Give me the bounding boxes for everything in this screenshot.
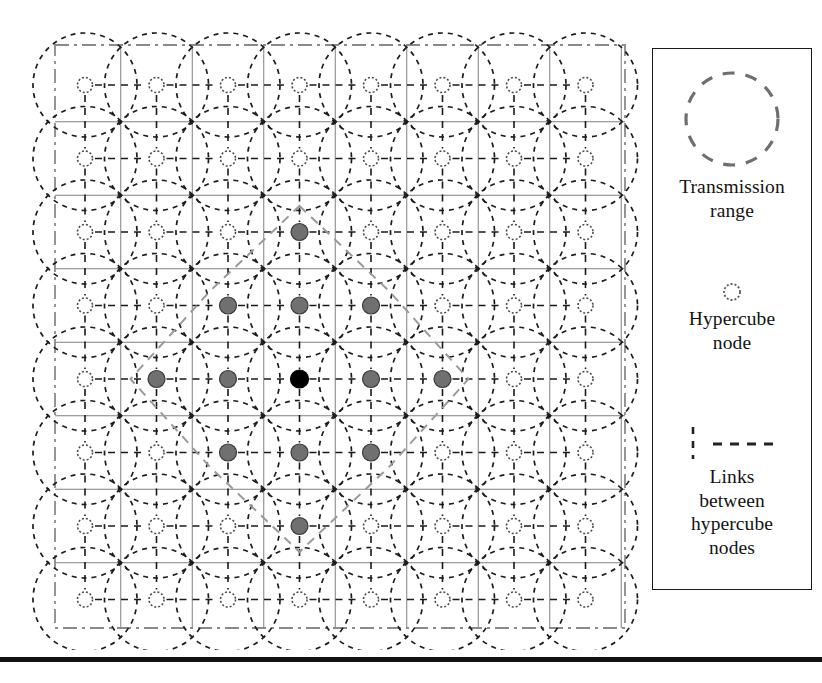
highlighted-hypercube-node[interactable]	[220, 297, 237, 314]
hypercube-node[interactable]	[507, 78, 522, 93]
hypercube-node[interactable]	[149, 592, 164, 607]
hypercube-node[interactable]	[578, 151, 593, 166]
highlighted-hypercube-node[interactable]	[220, 371, 237, 388]
legend-label-line: Links	[653, 465, 811, 489]
hypercube-node[interactable]	[221, 519, 236, 534]
hypercube-node[interactable]	[507, 225, 522, 240]
hypercube-node[interactable]	[78, 298, 93, 313]
legend-entry-transmission-range: Transmission range	[653, 63, 811, 222]
hypercube-node[interactable]	[364, 78, 379, 93]
legend-entry-hypercube-node: Hypercube node	[653, 277, 811, 354]
hypercube-node[interactable]	[578, 78, 593, 93]
hypercube-node[interactable]	[435, 78, 450, 93]
legend-label-line: nodes	[653, 536, 811, 560]
legend-label-links: Links between hypercube nodes	[653, 465, 811, 559]
bottom-horizontal-rule	[0, 657, 822, 662]
hypercube-node[interactable]	[78, 592, 93, 607]
network-svg	[0, 0, 660, 650]
hypercube-node[interactable]	[78, 519, 93, 534]
legend-label-line: between	[653, 489, 811, 513]
hypercube-node[interactable]	[507, 519, 522, 534]
hypercube-node[interactable]	[149, 151, 164, 166]
hypercube-node[interactable]	[78, 445, 93, 460]
hypercube-node[interactable]	[578, 225, 593, 240]
highlighted-hypercube-node[interactable]	[363, 297, 380, 314]
legend-label-hypercube-node: Hypercube node	[653, 307, 811, 354]
hypercube-node[interactable]	[149, 298, 164, 313]
highlighted-hypercube-node[interactable]	[148, 371, 165, 388]
hypercube-node[interactable]	[578, 592, 593, 607]
hypercube-node[interactable]	[364, 151, 379, 166]
legend-label-transmission-range: Transmission range	[653, 175, 811, 222]
hypercube-node[interactable]	[435, 519, 450, 534]
legend-label-line: Hypercube	[653, 307, 811, 331]
hypercube-node[interactable]	[221, 151, 236, 166]
hypercube-node[interactable]	[364, 225, 379, 240]
highlighted-hypercube-node[interactable]	[363, 444, 380, 461]
hypercube-node[interactable]	[78, 225, 93, 240]
highlighted-hypercube-node[interactable]	[434, 371, 451, 388]
hypercube-node[interactable]	[507, 445, 522, 460]
legend-swatch-wrap-links	[653, 421, 811, 465]
hypercube-node[interactable]	[149, 519, 164, 534]
hypercube-node[interactable]	[149, 445, 164, 460]
legend-swatch-wrap-hypercube-node	[653, 277, 811, 307]
highlighted-hypercube-node[interactable]	[291, 224, 308, 241]
hypercube-node[interactable]	[435, 298, 450, 313]
hypercube-node[interactable]	[78, 372, 93, 387]
hypercube-node[interactable]	[507, 592, 522, 607]
legend-box: Transmission range Hypercube node	[652, 48, 812, 590]
highlighted-hypercube-node[interactable]	[291, 444, 308, 461]
hypercube-node[interactable]	[507, 372, 522, 387]
hypercube-node-icon	[712, 277, 752, 307]
legend-swatch-wrap-transmission-range	[653, 63, 811, 175]
hypercube-node[interactable]	[578, 372, 593, 387]
network-topology-panel	[0, 0, 660, 650]
legend-label-line: Transmission	[653, 175, 811, 199]
hypercube-node[interactable]	[578, 519, 593, 534]
hypercube-node[interactable]	[435, 151, 450, 166]
hypercube-node[interactable]	[435, 225, 450, 240]
hypercube-node[interactable]	[578, 298, 593, 313]
highlighted-hypercube-node[interactable]	[291, 518, 308, 535]
hypercube-node[interactable]	[78, 151, 93, 166]
source-node[interactable]	[291, 370, 309, 388]
hypercube-node[interactable]	[435, 445, 450, 460]
hypercube-node[interactable]	[292, 592, 307, 607]
legend-label-line: range	[653, 199, 811, 223]
hypercube-link-icon	[669, 421, 795, 465]
highlighted-hypercube-node[interactable]	[220, 444, 237, 461]
hypercube-node[interactable]	[292, 151, 307, 166]
hypercube-node[interactable]	[435, 592, 450, 607]
figure-root: Transmission range Hypercube node	[0, 0, 822, 683]
hypercube-node[interactable]	[364, 519, 379, 534]
highlighted-hypercube-node[interactable]	[363, 371, 380, 388]
hypercube-node[interactable]	[221, 225, 236, 240]
hypercube-node[interactable]	[221, 592, 236, 607]
hypercube-node[interactable]	[578, 445, 593, 460]
hypercube-node[interactable]	[292, 78, 307, 93]
hypercube-node[interactable]	[364, 592, 379, 607]
legend-label-line: hypercube	[653, 512, 811, 536]
hypercube-node[interactable]	[149, 225, 164, 240]
hypercube-node[interactable]	[149, 78, 164, 93]
hypercube-node[interactable]	[507, 151, 522, 166]
legend-entry-links: Links between hypercube nodes	[653, 421, 811, 559]
hypercube-node[interactable]	[221, 78, 236, 93]
hypercube-node[interactable]	[507, 298, 522, 313]
transmission-range-icon	[673, 63, 791, 175]
highlighted-hypercube-node[interactable]	[291, 297, 308, 314]
hypercube-node[interactable]	[78, 78, 93, 93]
legend-label-line: node	[653, 331, 811, 355]
